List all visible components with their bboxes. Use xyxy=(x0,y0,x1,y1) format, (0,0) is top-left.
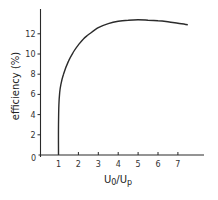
x-tick-label: 4 xyxy=(116,160,121,169)
y-tick-label: 10 xyxy=(25,50,35,59)
x-axis-title: U0/Up xyxy=(104,174,132,187)
x-tick-label: 5 xyxy=(136,160,141,169)
y-tick-label: 6 xyxy=(30,90,35,99)
efficiency-chart: 1234567 24681012 0 U0/Up efficiency (%) xyxy=(0,0,218,200)
efficiency-curve xyxy=(58,20,187,155)
x-tick-label: 1 xyxy=(56,160,61,169)
x-tick-label: 3 xyxy=(96,160,101,169)
plot-area: 1234567 24681012 0 xyxy=(25,9,204,169)
y-axis-ticks: 24681012 xyxy=(25,30,40,140)
x-tick-label: 2 xyxy=(76,160,81,169)
y-tick-label: 4 xyxy=(30,111,35,120)
y-tick-label: 8 xyxy=(30,70,35,79)
origin-label: 0 xyxy=(31,154,36,163)
y-tick-label: 12 xyxy=(25,30,35,39)
y-axis-title: efficiency (%) xyxy=(10,52,21,121)
x-tick-label: 6 xyxy=(155,160,160,169)
x-tick-label: 7 xyxy=(175,160,180,169)
y-tick-label: 2 xyxy=(30,131,35,140)
